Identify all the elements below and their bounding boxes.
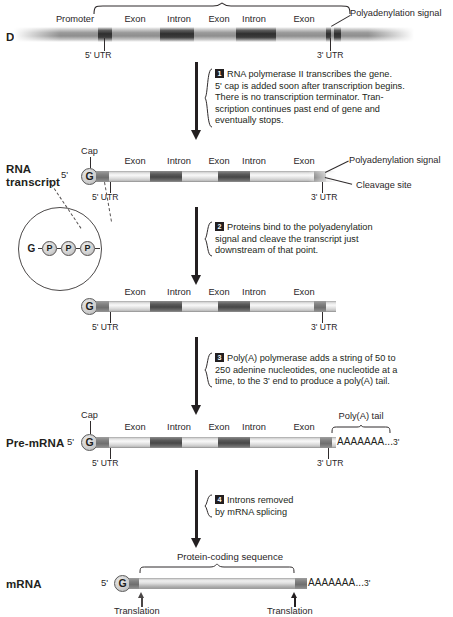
step-1-line-5: eventually stops.: [215, 115, 433, 127]
row-label-mrna: mRNA: [6, 578, 42, 590]
step-3-text: 3Poly(A) polymerase adds a string of 50 …: [215, 353, 443, 388]
rna-segment-label-intron-1: Intron: [155, 156, 203, 166]
translation-stop-arrow: [291, 592, 298, 607]
rna-right-fade: [308, 171, 336, 182]
mrna-polya-a-string: AAAAAAA...: [308, 577, 364, 588]
premrna-cap-label: Cap: [81, 410, 98, 420]
arrow-shaft: [195, 470, 198, 539]
premrna-segment-label-intron-2: Intron: [230, 422, 278, 432]
arrow-head: [191, 275, 201, 285]
step-2-brace: [204, 221, 213, 257]
translation-start-arrow: [138, 592, 145, 607]
cleaved-segment-label-intron-1: Intron: [155, 287, 203, 297]
premrna-polya-a-string: AAAAAAA...: [337, 436, 393, 447]
dna-segment-label-exon-1: Exon: [110, 14, 160, 24]
mrna-protein-coding-label: Protein-coding sequence: [150, 551, 310, 562]
dna-polya-leader: [331, 15, 351, 27]
dna-utr3-label: 3' UTR: [317, 50, 343, 60]
row-label-pre-mrna: Pre-mRNA: [6, 437, 64, 449]
premrna-intron-2-block: [218, 437, 250, 448]
rna-cleavage-site-label: Cleavage site: [356, 180, 412, 190]
step-1-brace: [204, 68, 213, 128]
premrna-utr3-block: [320, 437, 332, 448]
step-3-line-1: 3Poly(A) polymerase adds a string of 50 …: [215, 353, 443, 365]
inset-nucleotide-p-3: P: [80, 241, 95, 256]
inset-link-4: [95, 248, 100, 249]
cleaved-utr3-label: 3' UTR: [311, 322, 337, 332]
arrow-polyadenylation: [193, 337, 200, 415]
step-3-number: 3: [215, 353, 224, 362]
premrna-five-prime: 5': [67, 436, 74, 447]
inset-nucleotide-g: G: [25, 241, 38, 256]
step-1-line-4: scription continues past end of gene and: [215, 104, 433, 116]
step-2-text: 2Proteins bind to the polyadenylation si…: [215, 222, 433, 257]
cleaved-segment-label-exon-1: Exon: [110, 287, 160, 297]
inset-nucleotide-p-1: P: [42, 241, 57, 256]
cleaved-segment-label-intron-2: Intron: [230, 287, 278, 297]
step-3-brace: [204, 352, 213, 388]
mrna-three-prime: 3': [364, 578, 371, 588]
dna-intron-2-block: [236, 27, 276, 42]
mrna-five-prime: 5': [101, 577, 108, 588]
cleaved-intron-1-block: [150, 301, 182, 312]
step-2-line-2: signal and cleave the transcript just: [215, 234, 433, 246]
dna-intron-1-block: [160, 27, 194, 42]
mrna-utr3-block: [295, 578, 307, 589]
arrow-shaft: [195, 207, 198, 276]
step-1-line-3: There is no transcription terminator. Tr…: [215, 92, 433, 104]
mrna-utr5-block: [129, 578, 139, 589]
rna-cap-label: Cap: [81, 146, 98, 156]
step-1-line-2: 5' cap is added soon after transcription…: [215, 81, 433, 93]
rna-intron-2-block: [218, 171, 250, 182]
step-1-line-1: 1RNA polymerase II transcribes the gene.: [215, 69, 433, 81]
dna-strand-body: [14, 27, 414, 42]
rna-segment-label-exon-1: Exon: [110, 156, 160, 166]
premrna-intron-1-block: [150, 437, 182, 448]
arrow-head: [191, 130, 201, 140]
inset-nucleotide-p-2: P: [61, 241, 76, 256]
arrow-shaft: [195, 337, 198, 406]
premrna-polya-tail-sequence: AAAAAAA...3': [337, 436, 400, 447]
rna-segment-label-intron-2: Intron: [230, 156, 278, 166]
polya-tail-brace: [331, 424, 391, 434]
arrow-splicing: [193, 470, 200, 548]
premrna-body: [96, 437, 336, 448]
cleaved-utr5-label: 5' UTR: [92, 322, 118, 332]
cleaved-intron-2-block: [218, 301, 250, 312]
premrna-polya-tail-label: Poly(A) tail: [330, 411, 392, 421]
premrna-segment-label-intron-1: Intron: [155, 422, 203, 432]
arrow-head: [191, 405, 201, 415]
premrna-segment-label-exon-3: Exon: [281, 422, 327, 432]
dna-segment-label-promoter: Promoter: [40, 14, 110, 24]
arrow-head: [191, 538, 201, 548]
dna-segment-label-exon-3: Exon: [281, 14, 327, 24]
step-3-line-2: 250 adenine nucleotides, one nucleotide …: [215, 365, 443, 377]
step-4-text: 4Introns removed by mRNA splicing: [215, 495, 433, 518]
step-2-line-3: downstream of that point.: [215, 245, 433, 257]
step-2-line-1: 2Proteins bind to the polyadenylation: [215, 222, 433, 234]
mrna-strand: [129, 578, 307, 589]
step-4-line-2: by mRNA splicing: [215, 507, 433, 519]
row-label-rna-transcript-line1: RNA: [6, 163, 31, 175]
mrna-body: [129, 578, 307, 589]
step-4-brace: [204, 494, 213, 518]
cleaved-transcript-body: [96, 301, 336, 312]
mrna-polya-tail-sequence: AAAAAAA...3': [308, 577, 371, 588]
cleaved-transcript-strand: [96, 301, 336, 312]
rna-transcript-strand: [96, 171, 336, 182]
mrna-translation-start-label: Translation: [114, 606, 160, 616]
dna-utr5-label: 5' UTR: [85, 50, 111, 60]
step-1-number: 1: [215, 69, 224, 78]
arrow-transcription: [193, 62, 200, 140]
dna-polya-signal-label: Polyadenylation signal: [350, 8, 441, 18]
mrna-translation-stop-label: Translation: [267, 606, 313, 616]
arrow-shaft: [195, 62, 198, 131]
dna-strand: [14, 27, 414, 42]
rna-intron-1-block: [150, 171, 182, 182]
premrna-three-prime: 3': [393, 437, 400, 447]
rna-polya-signal-label: Polyadenylation signal: [349, 155, 440, 165]
rna-segment-label-exon-3: Exon: [281, 156, 327, 166]
dna-utr5-block: [98, 27, 112, 42]
dna-polya-signal-block: [334, 27, 341, 42]
premrna-cap-leader: [90, 421, 91, 434]
